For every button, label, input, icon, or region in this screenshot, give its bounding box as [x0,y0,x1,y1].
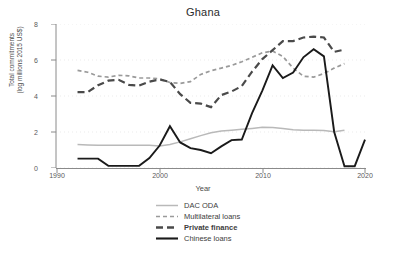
legend-item-private-finance[interactable]: Private finance [156,222,240,233]
legend-swatch-dac-oda [156,201,178,210]
y-tick-2: 2 [24,129,38,136]
chart-legend: DAC ODA Multilateral loans Private finan… [156,200,240,244]
legend-item-dac-oda[interactable]: DAC ODA [156,200,240,211]
x-axis-svg [46,168,366,174]
series-group [78,37,365,167]
legend-swatch-multilateral-loans [156,212,178,221]
axes [51,24,56,168]
y-tick-4: 4 [24,93,38,100]
legend-item-chinese-loans[interactable]: Chinese loans [156,233,240,244]
legend-label-chinese-loans: Chinese loans [184,234,232,243]
gridlines [56,24,366,168]
legend-label-dac-oda: DAC ODA [184,201,218,210]
chart-container: Ghana Total commitments (log millions 20… [0,0,406,260]
y-tick-0: 0 [24,165,38,172]
legend-item-multilateral-loans[interactable]: Multilateral loans [156,211,240,222]
x-tick-2000: 2000 [152,172,168,179]
legend-label-private-finance: Private finance [184,223,237,232]
y-axis-label: Total commitments (log millions 2015 US$… [8,0,24,120]
series-line-chinese-loans [78,49,365,166]
y-tick-6: 6 [24,57,38,64]
y-tick-8: 8 [24,21,38,28]
y-axis-label-line1: Total commitments [8,0,16,120]
legend-swatch-chinese-loans [156,234,178,243]
series-line-private-finance [78,37,345,108]
series-line-dac-oda [78,127,345,146]
plot-svg [46,24,366,168]
plot-area [46,24,366,168]
y-axis-label-line2: (log millions 2015 US$) [16,0,24,120]
x-axis-label: Year [0,184,406,193]
legend-swatch-private-finance [156,223,178,232]
x-tick-2020: 2020 [357,172,373,179]
x-tick-1990: 1990 [49,172,65,179]
x-tick-2010: 2010 [255,172,271,179]
legend-label-multilateral-loans: Multilateral loans [184,212,240,221]
page-title: Ghana [0,6,406,18]
